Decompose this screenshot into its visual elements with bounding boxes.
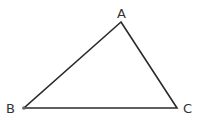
- triangle-abc: [24, 22, 177, 108]
- triangle-diagram: A B C: [0, 0, 197, 122]
- vertex-b-dot: [22, 106, 26, 110]
- vertex-label-b: B: [6, 101, 15, 116]
- vertex-label-c: C: [183, 101, 192, 116]
- vertex-label-a: A: [117, 6, 126, 21]
